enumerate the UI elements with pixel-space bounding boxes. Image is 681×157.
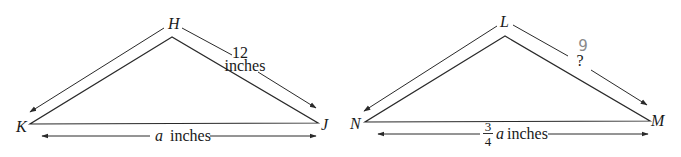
fraction-denominator: 4 <box>485 134 492 149</box>
arrow-lm-upper <box>513 25 568 56</box>
triangle-lnm: L N M 9 ? 3 4 a inches <box>349 13 666 149</box>
side-kj-variable: a <box>155 127 163 144</box>
vertex-label-h: H <box>167 15 181 32</box>
fraction-numerator: 3 <box>485 119 492 134</box>
vertex-label-l: L <box>499 13 509 30</box>
vertex-label-j: J <box>321 116 329 133</box>
side-lm-unknown: ? <box>576 52 583 69</box>
arrow-ln <box>364 26 497 111</box>
arrow-lm-lower <box>591 70 647 105</box>
arrow-hk <box>30 28 164 112</box>
triangle-hkj: H K J 12 inches a inches <box>15 15 329 144</box>
triangle-hkj-outline <box>30 37 318 124</box>
vertex-label-n: N <box>349 115 362 132</box>
vertex-label-k: K <box>15 118 28 135</box>
similar-triangles-diagram: H K J 12 inches a inches L N M 9 ? 3 4 a… <box>0 0 681 157</box>
side-nm-variable: a <box>496 125 504 142</box>
arrow-hj-lower <box>258 72 316 108</box>
side-nm-unit: inches <box>507 125 548 142</box>
side-kj-unit: inches <box>170 127 211 144</box>
arrow-hj-upper <box>182 28 232 55</box>
vertex-label-m: M <box>650 112 666 129</box>
side-hj-unit: inches <box>225 57 266 74</box>
triangle-lnm-outline <box>365 36 650 122</box>
